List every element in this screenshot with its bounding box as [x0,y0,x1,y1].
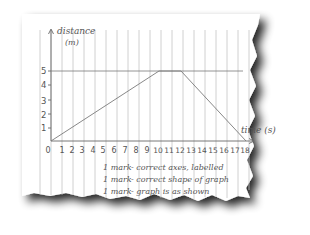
note-2-text: - correct shape of graph [131,175,229,184]
svg-text:4: 4 [90,146,95,155]
svg-text:13: 13 [186,146,196,155]
svg-text:18: 18 [240,146,250,155]
svg-text:0: 0 [45,146,50,155]
svg-text:11: 11 [164,146,174,155]
x-axis-label: time (s) [241,125,276,135]
y-axis-label: distance [57,26,95,36]
svg-text:17: 17 [230,146,240,155]
note-3-mark: 1 mark [103,187,132,196]
svg-text:8: 8 [133,146,138,155]
svg-text:7: 7 [122,146,127,155]
y-axis-unit: (m) [65,38,79,47]
paper-sheet [22,14,260,201]
svg-text:15: 15 [208,146,218,155]
note-3-text: - graph is as shown [131,187,209,196]
svg-text:12: 12 [175,146,185,155]
svg-text:5: 5 [100,146,105,155]
svg-text:4: 4 [41,80,46,90]
svg-text:9: 9 [144,146,149,155]
svg-text:16: 16 [219,146,229,155]
graph-canvas: 1 2 3 4 5 0 1 2 3 4 5 6 7 8 9 10 11 12 1… [0,0,310,235]
svg-text:3: 3 [41,96,46,106]
svg-text:2: 2 [41,110,46,120]
note-2-mark: 1 mark [103,175,132,184]
note-1-mark: 1 mark [103,163,132,172]
svg-text:1: 1 [59,146,64,155]
svg-text:5: 5 [41,66,46,76]
svg-text:3: 3 [79,146,84,155]
svg-text:10: 10 [153,146,163,155]
svg-text:1: 1 [41,123,46,133]
note-1-text: - correct axes, labelled [131,163,224,172]
svg-text:14: 14 [197,146,207,155]
svg-text:6: 6 [111,146,116,155]
torn-notebook-page: 1 2 3 4 5 0 1 2 3 4 5 6 7 8 9 10 11 12 1… [0,0,310,235]
svg-text:2: 2 [69,146,74,155]
